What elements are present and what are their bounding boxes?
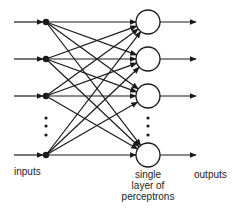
perceptron-node [136,143,160,167]
connection-edge [46,63,137,96]
connection-edge [46,22,137,55]
input-node [43,19,49,25]
output-arrows [160,22,196,155]
perceptron-node [136,84,160,108]
input-node [43,56,49,62]
connection-edges [46,22,141,155]
perceptron-ellipsis-dot [146,124,149,127]
connection-edge [46,32,141,155]
input-ellipsis-dot [44,116,47,119]
perceptron-ellipsis-dot [146,116,149,119]
perceptron-node [136,10,160,34]
connection-edge [46,59,137,92]
nodes [43,10,160,167]
outputs-label: outputs [194,170,227,180]
perceptron-ellipsis-dot [146,133,149,136]
input-node [43,152,49,158]
connection-edge [46,102,138,155]
connection-edge [46,59,139,147]
inputs-label: inputs [14,167,41,177]
layer-label-line1: single [118,170,178,180]
layer-label-line2: layer of [118,181,178,191]
input-node [43,93,49,99]
input-ellipsis-dot [44,133,47,136]
input-arrows [14,22,43,155]
layer-label-line3: perceptrons [112,192,184,202]
perceptron-node [136,47,160,71]
perceptron-diagram: inputs single layer of perceptrons outpu… [0,0,246,215]
ellipsis-dots [44,116,149,136]
connection-edge [46,96,138,149]
input-ellipsis-dot [44,124,47,127]
